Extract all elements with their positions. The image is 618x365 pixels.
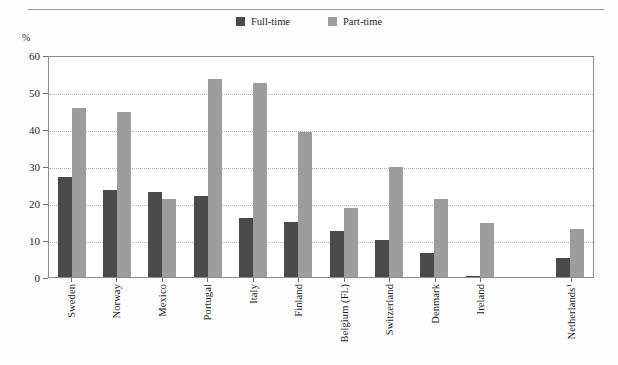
x-axis-tick — [480, 278, 481, 282]
bar-part-time — [480, 223, 494, 277]
x-axis-tick — [389, 278, 390, 282]
x-axis-tick-label: Sweden — [65, 284, 76, 318]
bar-full-time — [556, 258, 570, 277]
x-axis-slot: Denmark — [412, 278, 458, 365]
x-axis-slot: Finland — [276, 278, 322, 365]
y-axis-tick-label: 50 — [29, 87, 40, 99]
bar-groups — [49, 57, 593, 277]
chart-legend: Full-time Part-time — [0, 16, 618, 27]
y-axis-tick-label: 40 — [29, 124, 40, 136]
legend-item-part-time: Part-time — [328, 16, 382, 27]
bar-full-time — [239, 218, 253, 277]
legend-label-full-time: Full-time — [251, 16, 290, 27]
y-axis-tick-label: 60 — [29, 50, 40, 62]
x-axis-tick-label: Denmark — [429, 284, 440, 324]
x-axis-slot: Sweden — [48, 278, 94, 365]
bar-part-time — [72, 108, 86, 277]
x-axis-tick-label: Italy — [247, 284, 258, 304]
bar-group — [548, 57, 593, 277]
chart-page: Full-time Part-time % 0102030405060 Swed… — [0, 0, 618, 365]
x-axis-slot: Netherlands1 — [549, 278, 595, 365]
x-axis-tick — [116, 278, 117, 282]
x-axis-slot: Mexico — [139, 278, 185, 365]
bar-full-time — [420, 253, 434, 277]
bar-part-time — [389, 167, 403, 277]
bar-group — [185, 57, 230, 277]
x-axis-tick — [162, 278, 163, 282]
y-axis-unit-label: % — [22, 32, 30, 43]
y-axis-tick-label: 30 — [29, 161, 40, 173]
bar-part-time — [253, 83, 267, 277]
bar-full-time — [103, 190, 117, 277]
header-rule — [28, 9, 604, 10]
bar-part-time — [117, 112, 131, 277]
x-axis-tick — [298, 278, 299, 282]
bar-group-empty — [502, 57, 547, 277]
bar-group — [276, 57, 321, 277]
bar-full-time — [330, 231, 344, 277]
x-axis-slot: Norway — [94, 278, 140, 365]
bar-group — [457, 57, 502, 277]
x-axis-slot-empty — [503, 278, 549, 365]
bar-group — [94, 57, 139, 277]
bar-part-time — [162, 199, 176, 277]
y-axis-tick-label: 20 — [29, 198, 40, 210]
x-axis-slot: Switzerland — [367, 278, 413, 365]
plot-area — [48, 56, 594, 278]
bar-group — [49, 57, 94, 277]
x-axis-tick-label: Portugal — [202, 284, 213, 320]
x-axis-tick — [71, 278, 72, 282]
x-axis-tick — [344, 278, 345, 282]
square-swatch-icon-full-time — [236, 17, 245, 26]
x-axis: SwedenNorwayMexicoPortugalItalyFinlandBe… — [48, 278, 594, 365]
bar-group — [321, 57, 366, 277]
bar-group — [140, 57, 185, 277]
x-axis-tick-label: Belgium (Fl.) — [338, 284, 349, 342]
x-axis-tick-label: Norway — [111, 284, 122, 318]
x-axis-slot: Portugal — [185, 278, 231, 365]
bar-group — [230, 57, 275, 277]
bar-part-time — [344, 208, 358, 277]
legend-item-full-time: Full-time — [236, 16, 290, 27]
bar-group — [366, 57, 411, 277]
bar-full-time — [148, 192, 162, 277]
bar-part-time — [570, 229, 584, 277]
bar-part-time — [208, 79, 222, 277]
x-axis-tick-label: Switzerland — [384, 284, 395, 335]
cutoff-header-text — [0, 0, 618, 7]
square-swatch-icon-part-time — [328, 17, 337, 26]
x-axis-tick-label: Ireland — [475, 284, 486, 314]
x-axis-slot: Italy — [230, 278, 276, 365]
bar-group — [412, 57, 457, 277]
bar-full-time — [58, 177, 72, 277]
x-axis-tick-label: Finland — [293, 284, 304, 317]
bar-part-time — [434, 199, 448, 277]
x-axis-tick — [207, 278, 208, 282]
x-axis-slot: Belgium (Fl.) — [321, 278, 367, 365]
x-axis-slot: Ireland — [458, 278, 504, 365]
x-axis-tick-label: Mexico — [156, 284, 167, 317]
x-axis-tick — [435, 278, 436, 282]
bar-full-time — [194, 196, 208, 277]
bar-full-time — [375, 240, 389, 277]
y-axis-tick-label: 0 — [35, 272, 41, 284]
x-axis-tick — [571, 278, 572, 282]
bar-full-time — [466, 276, 480, 277]
bar-full-time — [284, 222, 298, 278]
x-axis-tick-label: Netherlands1 — [565, 284, 578, 339]
y-axis: 0102030405060 — [0, 56, 48, 278]
bar-part-time — [298, 132, 312, 277]
x-axis-tick — [253, 278, 254, 282]
legend-label-part-time: Part-time — [343, 16, 382, 27]
y-axis-tick-label: 10 — [29, 235, 40, 247]
